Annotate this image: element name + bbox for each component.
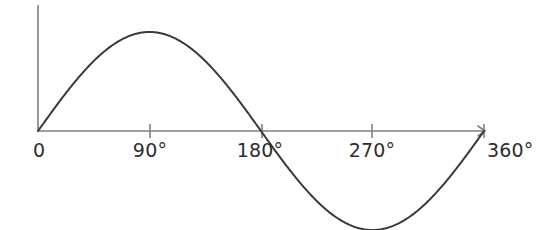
sine-wave-figure: 090°180°270°360°	[0, 0, 537, 230]
x-tick-label-270: 270°	[349, 141, 396, 160]
axes-group	[38, 5, 485, 136]
x-tick-label-90: 90°	[133, 141, 167, 160]
x-tick-label-0: 0	[33, 141, 45, 160]
x-tick-label-360: 360°	[487, 141, 534, 160]
x-tick-label-180: 180°	[237, 141, 284, 160]
plot-canvas	[0, 0, 537, 230]
